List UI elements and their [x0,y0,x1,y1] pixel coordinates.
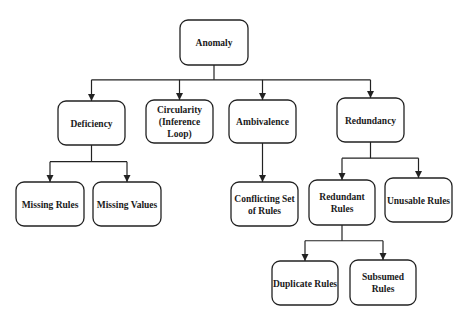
node-redundancy: Redundancy [337,98,404,142]
node-redundant-rules: RedundantRules [309,180,375,225]
edge-redundancy [339,142,423,180]
arrow-head-icon [302,254,309,261]
node-label: Anomaly [196,38,233,48]
edge-redundant-rules [302,225,387,261]
arrow-head-icon [259,175,266,182]
arrow-head-icon [367,91,374,98]
node-label: Loop) [167,129,191,140]
node-label: Redundant [319,192,365,202]
node-box [350,260,416,305]
node-missing-rules: Missing Rules [16,182,84,226]
node-circularity: Circularity(InferenceLoop) [146,100,213,143]
node-label: Rules [331,204,354,214]
arrow-head-icon [339,173,346,180]
arrow-head-icon [124,175,131,182]
node-label: Missing Rules [22,200,79,210]
node-label: of Rules [248,206,281,216]
arrow-head-icon [415,171,422,178]
node-label: Circularity [157,105,202,115]
node-box [231,182,298,226]
node-label: Subsumed [362,272,405,282]
arrow-head-icon [259,93,266,100]
node-label: Rules [372,284,395,294]
anomaly-taxonomy-diagram: AnomalyDeficiencyCircularity(InferenceLo… [0,0,471,325]
edge-anomaly [88,65,374,101]
node-unusable-rules: Unusable Rules [385,178,452,222]
nodes: AnomalyDeficiencyCircularity(InferenceLo… [16,20,452,305]
node-missing-values: Missing Values [93,182,161,226]
node-duplicate-rules: Duplicate Rules [272,261,338,305]
node-label: Conflicting Set [234,194,295,204]
node-ambivalence: Ambivalence [229,100,296,143]
node-label: (Inference [159,117,201,128]
node-box [309,180,375,225]
node-deficiency: Deficiency [58,101,125,145]
connectors [47,65,423,261]
node-label: Deficiency [70,119,112,129]
node-label: Missing Values [97,200,158,210]
edge-deficiency [47,145,131,182]
edge-ambivalence [259,143,266,182]
node-anomaly: Anomaly [180,20,248,65]
arrow-head-icon [380,253,387,260]
node-label: Duplicate Rules [273,279,337,289]
arrow-head-icon [47,175,54,182]
node-label: Ambivalence [236,117,289,127]
node-subsumed-rules: SubsumedRules [350,260,416,305]
node-label: Redundancy [345,116,396,126]
arrow-head-icon [88,94,95,101]
node-label: Unusable Rules [387,196,450,206]
node-conflicting-set-of-rules: Conflicting Setof Rules [231,182,298,226]
arrow-head-icon [176,93,183,100]
